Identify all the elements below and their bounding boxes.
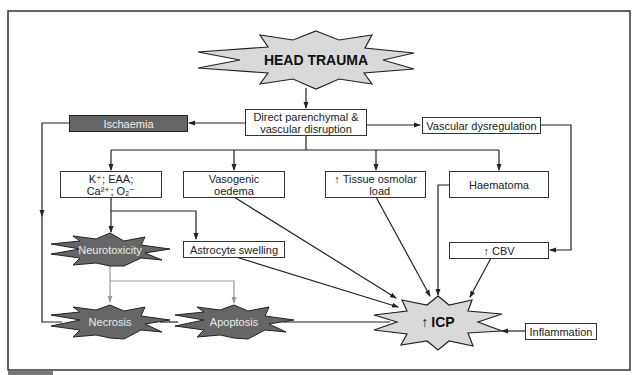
up-arrow-icon: ↑ [483, 245, 489, 257]
head-trauma-icp-diagram: HEAD TRAUMA Neurotoxicity Necrosis Apopt… [0, 0, 636, 375]
up-arrow-icon: ↑ [421, 314, 428, 330]
caption-bar [8, 371, 53, 375]
neurotoxicity-label: Neurotoxicity [70, 243, 150, 257]
cbv-box: ↑ CBV [449, 242, 549, 259]
inflammation-box: Inflammation [525, 323, 597, 340]
head-trauma-label: HEAD TRAUMA [238, 50, 394, 70]
ions-box: K⁺; EAA; Ca²⁺; O₂⁻ [60, 171, 162, 198]
up-arrow-icon: ↑ [334, 173, 340, 185]
vascular-dysregulation-box: Vascular dysregulation [422, 117, 541, 134]
astrocyte-swelling-box: Astrocyte swelling [183, 241, 285, 258]
tissue-osmolar-box: ↑ Tissue osmolar load [325, 171, 426, 198]
haematoma-box: Haematoma [449, 171, 549, 198]
direct-disruption-box: Direct parenchymal & vascular disruption [245, 109, 367, 136]
ischaemia-box: Ischaemia [69, 115, 188, 132]
vasogenic-oedema-box: Vasogenic oedema [183, 171, 285, 198]
necrosis-label: Necrosis [70, 315, 150, 329]
icp-label: ↑ ICP [408, 313, 468, 331]
apoptosis-label: Apoptosis [194, 315, 274, 329]
